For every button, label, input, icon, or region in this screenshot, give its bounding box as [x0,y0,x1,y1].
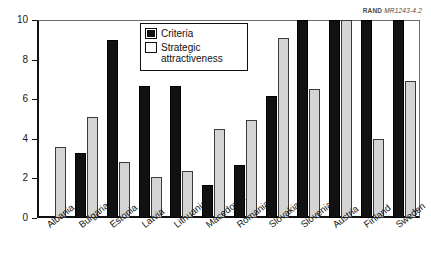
bar-strategic [341,20,352,218]
y-tick-label: 10 [17,14,28,25]
bar-criteria [361,20,372,218]
chart-legend: Criteria Strategic attractiveness [140,23,248,71]
bar-group [39,20,71,218]
bar-group [325,20,357,218]
bar-group [261,20,293,218]
bar-group [71,20,103,218]
bar-strategic [309,89,320,218]
y-tick-label: 2 [22,172,28,183]
bar-strategic [87,117,98,218]
bar-criteria [107,40,118,218]
x-axis-labels: AlbaniaBulgariaEstoniaLatviaLithuaniaMac… [39,220,420,278]
bar-group [293,20,325,218]
y-tick-label: 8 [22,54,28,65]
bar-criteria [329,20,340,218]
legend-label-criteria: Criteria [161,28,193,40]
rand-report-code: MR1243-4.2 [384,7,422,14]
bar-criteria [170,86,181,218]
legend-swatch-criteria-icon [146,29,156,38]
rand-org-label: RAND [363,7,383,14]
y-tick-mark [32,218,37,219]
legend-item-strategic: Strategic attractiveness [146,42,239,65]
y-tick-label: 4 [22,133,28,144]
legend-label-strategic: Strategic attractiveness [161,42,223,65]
bar-criteria [266,96,277,218]
rand-credit-label: RAND MR1243-4.2 [363,7,422,14]
y-axis: 0246810 [0,20,37,218]
bar-group [388,20,420,218]
legend-label-strategic-line2: attractiveness [161,53,223,65]
bar-group [357,20,389,218]
y-tick-label: 6 [22,93,28,104]
bar-criteria [139,86,150,218]
bar-strategic [405,81,416,218]
bar-criteria [75,153,86,218]
y-tick-label: 0 [22,212,28,223]
legend-swatch-strategic-icon [146,43,156,52]
bar-strategic [278,38,289,218]
bar-criteria [297,20,308,218]
legend-label-strategic-line1: Strategic [161,42,200,53]
bar-criteria [393,20,404,218]
legend-item-criteria: Criteria [146,28,239,40]
bar-chart: RAND MR1243-4.2 0246810 AlbaniaBulgariaE… [0,0,431,278]
bar-group [103,20,135,218]
